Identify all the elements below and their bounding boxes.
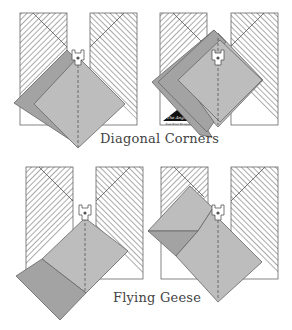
presser-foot-icon [79, 205, 91, 220]
panel-diagonal-corners-1 [14, 13, 137, 148]
svg-text:Pam Bono Designs: Pam Bono Designs [166, 123, 191, 126]
caption-diagonal-corners: Diagonal Corners [100, 131, 219, 146]
quilting-diagram: The Angler Pam Bono Designs [0, 0, 292, 330]
caption-flying-geese: Flying Geese [113, 290, 201, 305]
panel-diagonal-corners-2: The Angler Pam Bono Designs [152, 13, 278, 137]
panel-flying-geese-2 [148, 167, 278, 302]
